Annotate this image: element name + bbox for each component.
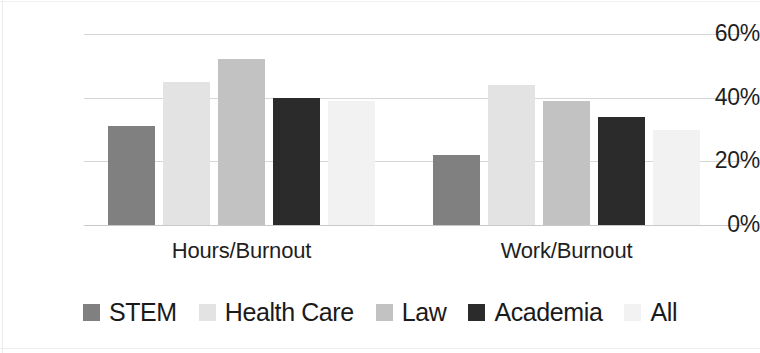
bar [433, 155, 480, 225]
legend-item[interactable]: Law [376, 298, 447, 326]
legend-item[interactable]: STEM [83, 298, 177, 326]
legend-swatch-icon [199, 304, 216, 321]
bar [543, 101, 590, 225]
bar-chart: 60%40%20%0% Hours/BurnoutWork/Burnout ST… [0, 0, 760, 353]
legend-swatch-icon [468, 304, 485, 321]
bar [273, 98, 320, 225]
bar [108, 126, 155, 225]
legend-item-label: Health Care [225, 298, 354, 326]
x-axis-category-labels: Hours/BurnoutWork/Burnout [0, 232, 760, 278]
scan-edge-artifact-bottom [0, 348, 760, 349]
x-axis-label: Hours/Burnout [108, 238, 375, 264]
legend-swatch-icon [376, 304, 393, 321]
legend-item-label: All [650, 298, 677, 326]
bar [218, 59, 265, 225]
chart-legend: STEMHealth CareLawAcademiaAll [0, 292, 760, 332]
bar [328, 101, 375, 225]
bar [598, 117, 645, 225]
bar [488, 85, 535, 225]
bar [653, 130, 700, 226]
legend-item-label: Academia [494, 298, 602, 326]
plot-area: 60%40%20%0% [0, 0, 760, 232]
x-axis-label: Work/Burnout [433, 238, 700, 264]
legend-swatch-icon [624, 304, 641, 321]
legend-swatch-icon [83, 304, 100, 321]
legend-item[interactable]: Health Care [199, 298, 354, 326]
legend-item[interactable]: Academia [468, 298, 602, 326]
legend-item-label: STEM [109, 298, 177, 326]
bars-layer [0, 0, 760, 232]
bar [163, 82, 210, 225]
legend-item[interactable]: All [624, 298, 677, 326]
legend-item-label: Law [402, 298, 447, 326]
